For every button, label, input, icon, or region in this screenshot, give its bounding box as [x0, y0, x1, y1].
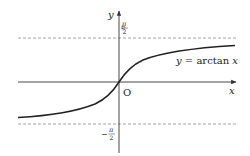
svg-text:2: 2 [123, 28, 127, 35]
curve-equation-label: y = arctan x [175, 55, 238, 66]
svg-text:π: π [108, 126, 114, 134]
origin-label: O [123, 87, 131, 98]
svg-text:−: − [101, 130, 108, 139]
lower-fraction: − π 2 [101, 126, 115, 141]
y-axis-label: y [107, 9, 114, 20]
svg-text:π: π [121, 20, 127, 28]
svg-text:2: 2 [110, 134, 114, 141]
x-axis-label: x [229, 85, 235, 96]
arctan-graph: y x O π π 2 − π 2 y = arctan x [0, 0, 250, 156]
